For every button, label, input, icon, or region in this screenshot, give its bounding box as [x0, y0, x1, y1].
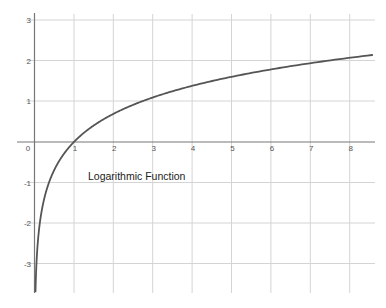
log-function-plot: 0 1 2 3 4 5 6 7 8 3 2 1 -1 -2 -3 Logarit…: [0, 0, 386, 308]
x-tick-8: 8: [348, 144, 353, 153]
log-curve: [35, 55, 372, 291]
function-label: Logarithmic Function: [88, 170, 186, 182]
x-tick-2: 2: [112, 144, 117, 153]
y-tick-neg3: -3: [24, 260, 32, 269]
x-tick-4: 4: [191, 144, 196, 153]
y-tick-2: 2: [27, 57, 32, 66]
vertical-gridlines: [74, 14, 350, 293]
x-tick-0: 0: [26, 144, 31, 153]
y-tick-neg2: -2: [24, 219, 32, 228]
x-tick-5: 5: [230, 144, 235, 153]
x-tick-labels: 0 1 2 3 4 5 6 7 8: [26, 144, 354, 153]
x-tick-7: 7: [309, 144, 314, 153]
x-tick-6: 6: [270, 144, 275, 153]
y-tick-3: 3: [27, 16, 32, 25]
x-tick-1: 1: [73, 144, 78, 153]
x-tick-3: 3: [151, 144, 156, 153]
y-tick-neg1: -1: [24, 179, 32, 188]
y-tick-1: 1: [27, 97, 32, 106]
